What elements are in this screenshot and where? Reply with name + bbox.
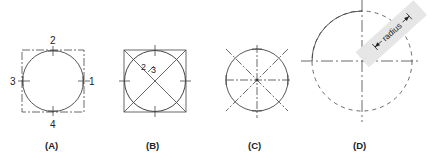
- figure-a: [18, 46, 90, 116]
- caption-a: (A): [45, 140, 58, 151]
- caption-c: (C): [248, 140, 261, 151]
- label-a-bottom: 4: [50, 119, 56, 130]
- caption-d: (D): [353, 140, 366, 151]
- circle-sketching-diagram: 2 3 1 4 (A) 2 3 (B) (C): [0, 0, 430, 162]
- label-b-fraction-den: 3: [151, 65, 156, 75]
- label-b-fraction-num: 2: [141, 62, 146, 72]
- figure-c: [226, 45, 290, 118]
- paper-strip: radius: [356, 0, 427, 67]
- figure-b: [119, 45, 191, 117]
- caption-b: (B): [146, 140, 159, 151]
- label-a-right: 1: [89, 76, 95, 87]
- label-a-left: 3: [10, 76, 16, 87]
- label-a-top: 2: [50, 35, 56, 46]
- center-point-c: [256, 79, 259, 82]
